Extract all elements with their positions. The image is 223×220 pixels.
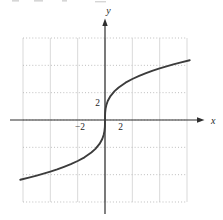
y-axis-arrow-icon: [102, 19, 107, 27]
screenshot-root: y x 2 −2 2: [0, 0, 223, 220]
x-axis-label: x: [210, 115, 216, 126]
axes: [10, 19, 205, 215]
cropped-text-fragment: [34, 0, 43, 2]
x-axis-arrow-icon: [197, 117, 205, 122]
cropped-text-fragment: [95, 1, 106, 2]
y-axis-label: y: [105, 5, 111, 16]
cropped-text-fragment: [12, 0, 19, 2]
cropped-text-fragments: [12, 0, 106, 2]
cropped-text-fragment: [62, 0, 67, 2]
x-tick-label-2: 2: [118, 122, 123, 132]
y-tick-label-2: 2: [95, 98, 100, 108]
x-tick-label-neg2: −2: [75, 122, 85, 132]
function-graph-figure: y x 2 −2 2: [0, 0, 223, 220]
